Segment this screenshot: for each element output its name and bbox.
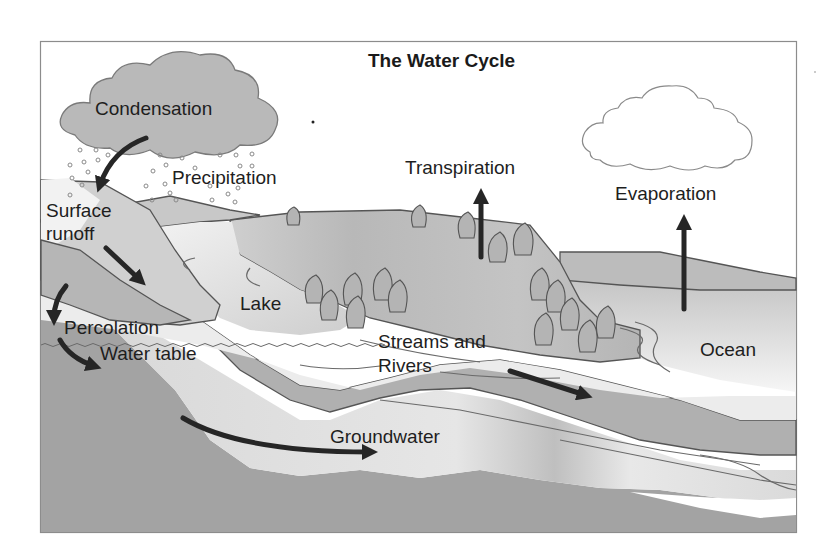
label-evaporation: Evaporation	[615, 183, 716, 204]
label-streams-2: Rivers	[378, 355, 432, 376]
label-surface-runoff-2: runoff	[46, 223, 95, 244]
label-percolation: Percolation	[64, 317, 159, 338]
label-precipitation: Precipitation	[172, 167, 277, 188]
label-surface-runoff-1: Surface	[46, 200, 111, 221]
label-transpiration: Transpiration	[405, 157, 515, 178]
label-ocean: Ocean	[700, 339, 756, 360]
water-cycle-diagram: The Water Cycle Condensation Precipitati…	[0, 0, 832, 556]
label-streams-1: Streams and	[378, 331, 486, 352]
label-lake: Lake	[240, 293, 281, 314]
label-condensation: Condensation	[95, 98, 212, 119]
diagram-title: The Water Cycle	[368, 50, 515, 71]
label-groundwater: Groundwater	[330, 426, 441, 447]
label-water-table: Water table	[100, 343, 196, 364]
